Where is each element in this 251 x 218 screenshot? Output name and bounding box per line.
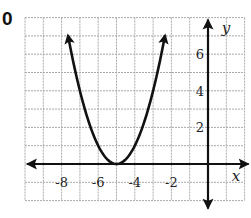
x-tick-label: -6 — [92, 175, 105, 190]
y-tick-label: 6 — [196, 47, 204, 62]
x-axis-label: x — [232, 167, 241, 185]
x-tick-label: -2 — [165, 175, 178, 190]
grid — [25, 18, 245, 201]
x-tick-label: -8 — [55, 175, 68, 190]
x-tick-label: -4 — [128, 175, 141, 190]
y-tick-label: 4 — [196, 84, 204, 99]
coordinate-graph: xy-8-6-4-2246 — [0, 0, 251, 218]
y-tick-label: 2 — [196, 120, 204, 135]
y-axis-label: y — [221, 19, 231, 37]
